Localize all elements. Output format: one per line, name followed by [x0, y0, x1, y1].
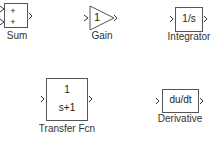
- derivative-expr: du/dt: [162, 94, 199, 105]
- derivative-label: Derivative: [150, 113, 210, 124]
